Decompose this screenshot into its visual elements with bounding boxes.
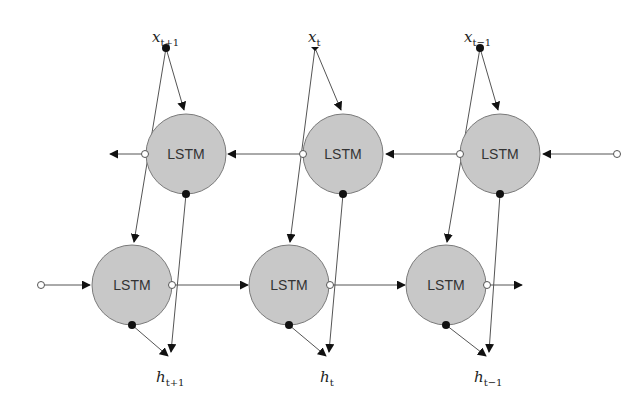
backward-lstm-cell-2: LSTM	[303, 114, 383, 194]
svg-text:LSTM: LSTM	[113, 277, 150, 293]
output-label-h-t-minus-1: ht−1	[474, 368, 502, 388]
svg-text:LSTM: LSTM	[324, 146, 361, 162]
input-label-x-t: xt	[308, 28, 321, 48]
input-label-x-t-minus-1: xt−1	[464, 28, 491, 48]
svg-text:LSTM: LSTM	[270, 277, 307, 293]
output-label-h-t-plus-1: ht+1	[156, 368, 184, 388]
backward-lstm-cell-1: LSTM	[146, 114, 226, 194]
input-label-x-t-plus-1: xt+1	[152, 28, 179, 48]
forward-lstm-cell-3: LSTM	[406, 245, 486, 325]
forward-lstm-cell-2: LSTM	[249, 245, 329, 325]
forward-lstm-cell-1: LSTM	[92, 245, 172, 325]
svg-text:LSTM: LSTM	[427, 277, 464, 293]
svg-text:LSTM: LSTM	[481, 146, 518, 162]
svg-text:LSTM: LSTM	[167, 146, 204, 162]
bilstm-diagram: LSTM LSTM LSTM LSTM LSTM LSTM	[0, 0, 625, 416]
input-dots	[162, 44, 484, 52]
output-label-h-t: ht	[320, 368, 334, 388]
backward-lstm-cell-3: LSTM	[460, 114, 540, 194]
